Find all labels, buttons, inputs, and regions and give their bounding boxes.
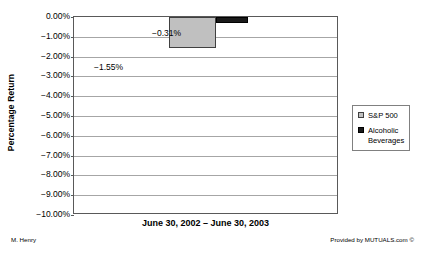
y-axis-tick-label: −6.00% <box>20 131 70 140</box>
chart-legend: S&P 500 Alcoholic Beverages <box>352 105 410 151</box>
gridline <box>74 195 337 196</box>
y-axis-tick-label: −3.00% <box>20 71 70 80</box>
gridline <box>74 96 337 97</box>
y-axis-tickmark <box>71 96 74 97</box>
y-axis-tickmark <box>71 195 74 196</box>
gridline <box>74 57 337 58</box>
data-label-sp500: −1.55% <box>94 63 123 72</box>
chart-screenshot: Percentage Return 0.00%−1.00%−2.00%−3.00… <box>0 0 424 253</box>
legend-label-alcoholic-beverages: Alcoholic Beverages <box>368 126 405 145</box>
y-axis-tickmark <box>71 37 74 38</box>
y-axis-tick-label: −7.00% <box>20 150 70 159</box>
gridline <box>74 156 337 157</box>
gridline <box>74 76 337 77</box>
y-axis-tickmark <box>71 175 74 176</box>
footer-author: M. Henry <box>11 236 36 243</box>
y-axis-tickmark <box>71 156 74 157</box>
y-axis-tick-labels: 0.00%−1.00%−2.00%−3.00%−4.00%−5.00%−6.00… <box>20 0 70 253</box>
y-axis-title-label: Percentage Return <box>6 74 16 151</box>
y-axis-tick-label: −4.00% <box>20 91 70 100</box>
y-axis-tick-label: −2.00% <box>20 51 70 60</box>
y-axis-tickmark <box>71 136 74 137</box>
y-axis-tickmark <box>71 76 74 77</box>
y-axis-tickmark <box>71 215 74 216</box>
y-axis-tickmark <box>71 116 74 117</box>
gridline <box>74 136 337 137</box>
legend-label-sp500: S&P 500 <box>368 111 398 120</box>
y-axis-title: Percentage Return <box>0 0 22 253</box>
footer-provider: Provided by MUTUALS.com © <box>330 236 414 243</box>
y-axis-tick-label: −1.00% <box>20 32 70 41</box>
legend-item-alcoholic-beverages: Alcoholic Beverages <box>358 126 405 145</box>
y-axis-tick-label: −10.00% <box>20 210 70 219</box>
data-label-alcoholic-beverages: −0.31% <box>152 29 181 38</box>
y-axis-tick-label: 0.00% <box>20 12 70 21</box>
y-axis-tickmark <box>71 57 74 58</box>
legend-swatch-icon-sp500 <box>358 112 364 118</box>
legend-swatch-icon-alcoholic-beverages <box>358 127 364 133</box>
gridline <box>74 175 337 176</box>
y-axis-tick-label: −8.00% <box>20 170 70 179</box>
plot-area: −1.55%−0.31% <box>73 16 338 214</box>
gridline <box>74 116 337 117</box>
y-axis-tickmark <box>71 17 74 18</box>
y-axis-tick-label: −5.00% <box>20 111 70 120</box>
legend-item-sp500: S&P 500 <box>358 111 405 120</box>
x-axis-title: June 30, 2002 – June 30, 2003 <box>73 218 338 228</box>
bar-alcoholic-beverages <box>216 17 248 23</box>
y-axis-tick-label: −9.00% <box>20 190 70 199</box>
